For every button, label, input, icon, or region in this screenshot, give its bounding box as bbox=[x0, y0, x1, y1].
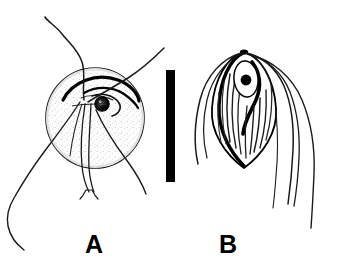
panel-label-a: A bbox=[85, 232, 103, 257]
nucleus-b bbox=[241, 75, 252, 86]
scale-bar bbox=[166, 70, 175, 182]
panel-label-b: B bbox=[219, 232, 237, 257]
figure-drawing-canvas bbox=[0, 0, 338, 266]
nucleus-highlight-a bbox=[99, 100, 102, 103]
figure-plate: A B bbox=[0, 0, 338, 266]
